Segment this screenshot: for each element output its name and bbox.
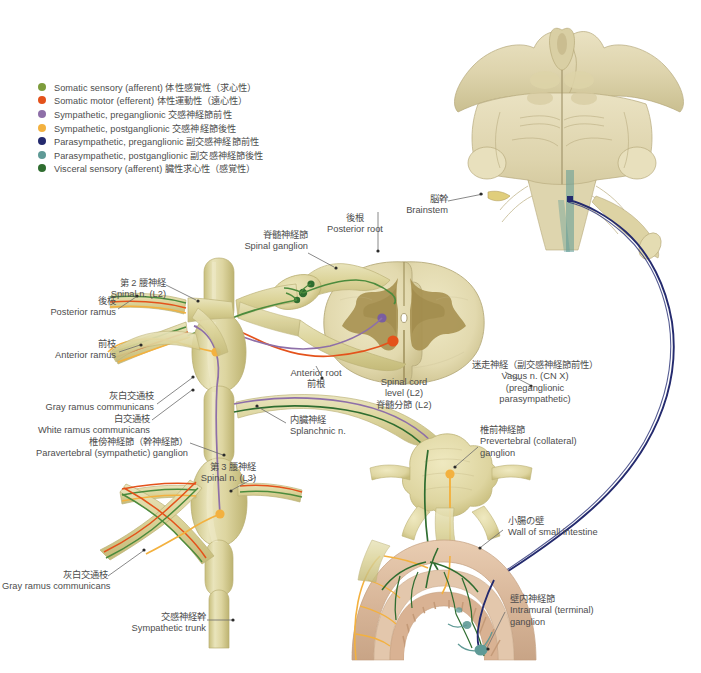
- legend-label-parasympathetic-postganglionic: Parasympathetic, postganglionic 副交感神経節後性: [54, 148, 263, 162]
- legend-label-sympathetic-preganglionic: Sympathetic, preganglionic 交感神経節前性: [54, 107, 232, 121]
- label-paravertebral-ganglion: 椎傍神経節（幹神経節） Paravertebral (sympathetic) …: [2, 437, 188, 460]
- label-spinal-ganglion: 脊髄神経節 Spinal ganglion: [188, 230, 308, 253]
- label-anterior-ramus: 前枝 Anterior ramus: [2, 339, 116, 362]
- l3-spinal-nerve-rami: [100, 480, 302, 564]
- legend-label-somatic-sensory-afferent: Somatic sensory (afferent) 体性感覚性（求心性）: [54, 80, 256, 94]
- label-gray-ramus-communicans-lower: 灰白交通枝 Gray ramus communicans: [2, 570, 108, 593]
- legend-swatch-visceral-sensory-afferent: [38, 164, 46, 172]
- legend-label-sympathetic-postganglionic: Sympathetic, postganglionic 交感神経節後性: [54, 121, 236, 135]
- legend-swatch-somatic-sensory-afferent: [38, 83, 46, 91]
- legend-label-somatic-motor-efferent: Somatic motor (efferent) 体性運動性（遠心性）: [54, 93, 247, 107]
- label-vagus-nerve: 迷走神経（副交感神経節前性） Vagus n. (CN X) (pregangl…: [452, 360, 618, 406]
- label-posterior-ramus: 後枝 Posterior ramus: [2, 296, 116, 319]
- legend-item-parasympathetic-preganglionic: Parasympathetic, preganglionic 副交感神経節前性: [38, 134, 263, 148]
- legend-swatch-parasympathetic-preganglionic: [38, 137, 46, 145]
- legend-label-visceral-sensory-afferent: Visceral sensory (afferent) 臓性求心性（感覚性）: [54, 161, 255, 175]
- legend-item-sympathetic-postganglionic: Sympathetic, postganglionic 交感神経節後性: [38, 121, 263, 135]
- legend-item-somatic-motor-efferent: Somatic motor (efferent) 体性運動性（遠心性）: [38, 94, 263, 108]
- label-spinal-nerve-l3: 第 3 腰神経 Spinal n. (L3): [136, 462, 256, 485]
- label-wall-of-small-intestine: 小腸の壁 Wall of small intestine: [508, 516, 648, 539]
- legend-item-somatic-sensory-afferent: Somatic sensory (afferent) 体性感覚性（求心性）: [38, 80, 263, 94]
- anatomy-diagram-canvas: Somatic sensory (afferent) 体性感覚性（求心性） So…: [0, 0, 701, 673]
- small-intestine-wall: [352, 540, 536, 660]
- label-sympathetic-trunk: 交感神経幹 Sympathetic trunk: [90, 612, 206, 635]
- sympathetic-trunk-illustration: [191, 258, 247, 648]
- legend-swatch-sympathetic-preganglionic: [38, 110, 46, 118]
- legend-label-parasympathetic-preganglionic: Parasympathetic, preganglionic 副交感神経節前性: [54, 134, 259, 148]
- brainstem-illustration: [454, 28, 683, 263]
- legend-item-visceral-sensory-afferent: Visceral sensory (afferent) 臓性求心性（感覚性）: [38, 162, 263, 176]
- legend-item-parasympathetic-postganglionic: Parasympathetic, postganglionic 副交感神経節後性: [38, 148, 263, 162]
- label-spinal-cord-level: Spinal cord level (L2) 脊髄分節 (L2): [352, 377, 456, 411]
- label-intramural-ganglion: 壁内神経節 Intramural (terminal) ganglion: [510, 594, 650, 628]
- label-white-ramus-communicans: 白交通枝 White ramus communicans: [2, 414, 150, 437]
- legend-swatch-somatic-motor-efferent: [38, 96, 46, 104]
- spinal-ganglion-and-roots: [186, 264, 406, 371]
- legend-swatch-parasympathetic-postganglionic: [38, 151, 46, 159]
- label-prevertebral-ganglion: 椎前神経節 Prevertebral (collateral) ganglion: [480, 425, 610, 459]
- label-anterior-root: Anterior root 前根: [268, 368, 364, 391]
- legend: Somatic sensory (afferent) 体性感覚性（求心性） So…: [38, 80, 263, 175]
- legend-item-sympathetic-preganglionic: Sympathetic, preganglionic 交感神経節前性: [38, 107, 263, 121]
- label-splanchnic-nerve: 内臓神経 Splanchnic n.: [290, 415, 390, 438]
- legend-swatch-sympathetic-postganglionic: [38, 124, 46, 132]
- label-posterior-root: 後根 Posterior root: [308, 213, 402, 236]
- label-gray-ramus-communicans-upper: 灰白交通枝 Gray ramus communicans: [2, 391, 154, 414]
